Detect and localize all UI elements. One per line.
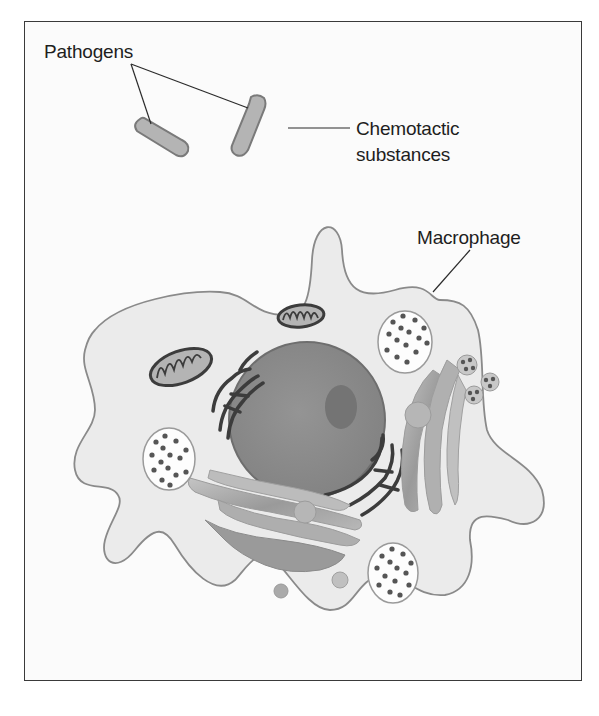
pathogen-1 xyxy=(135,118,188,157)
pathogens-pointer xyxy=(131,64,248,124)
lysosome-vesicle-left xyxy=(143,428,195,490)
macrophage-label: Macrophage xyxy=(417,226,521,249)
lysosome-vesicle-top-right xyxy=(378,311,432,373)
chemotactic-substances-label-line1: Chemotactic xyxy=(356,117,459,140)
chemotactic-substances-label-line2: substances xyxy=(356,143,450,166)
lysosome-vesicle-bottom xyxy=(368,543,418,603)
macrophage-pointer xyxy=(433,250,470,292)
macrophage-illustration xyxy=(0,0,599,716)
nucleolus xyxy=(325,385,357,429)
nucleus xyxy=(229,342,385,498)
pathogens-label: Pathogens xyxy=(44,40,133,63)
